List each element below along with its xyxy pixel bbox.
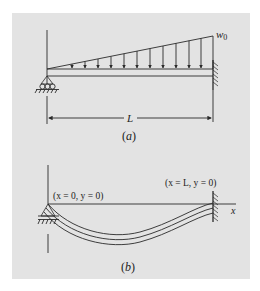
beam-diagram: w0 L (a) [0,0,260,291]
x-axis-label: x [230,205,236,216]
wall-hatch-b [213,193,218,221]
length-label: L [126,112,133,124]
load-arrows [72,38,201,68]
deflected-beam-bottom [44,212,213,245]
right-boundary-label: (x = L, y = 0) [165,178,216,189]
deflected-beam-top [48,203,213,235]
caption-a: (a) [122,129,136,143]
left-boundary-label: (x = 0, y = 0) [53,191,103,202]
caption-b: (b) [121,260,135,274]
load-label: w0 [216,28,227,42]
support-b [38,204,59,224]
wall-hatch-a [213,62,218,86]
panel-a [35,30,218,124]
